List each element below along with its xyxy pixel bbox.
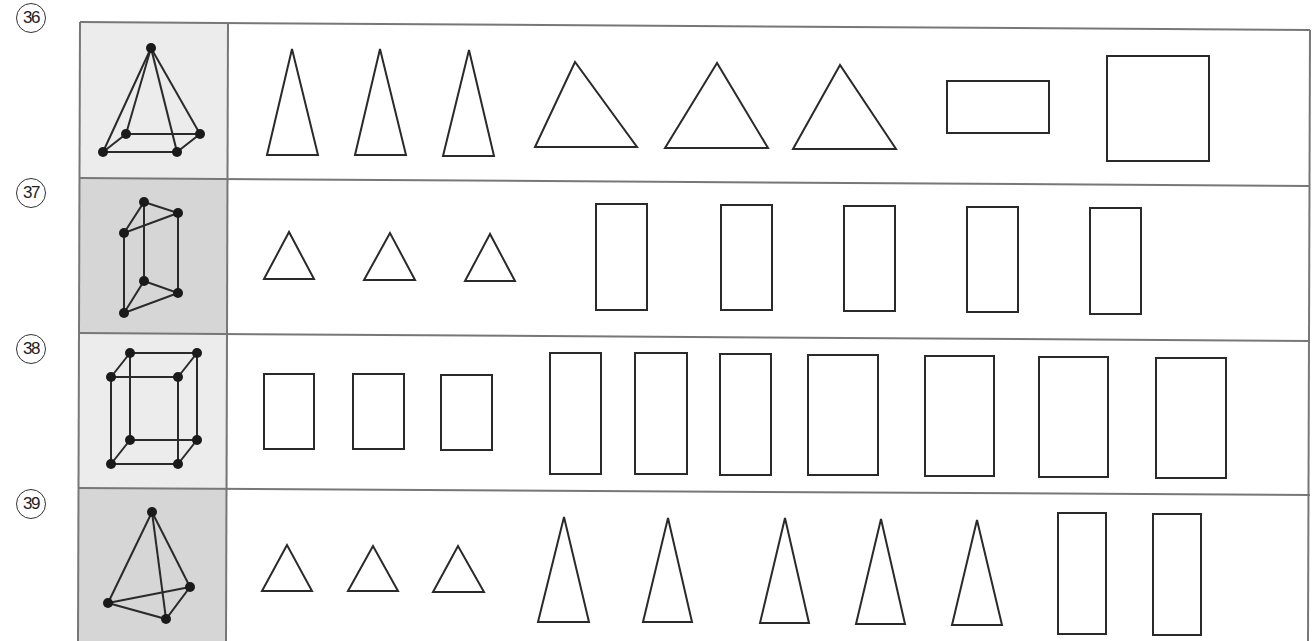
face-tall-triangle	[538, 517, 589, 622]
face-rectangle	[925, 356, 994, 476]
face-tall-rectangle	[1153, 514, 1201, 635]
face-rectangle	[1156, 358, 1226, 478]
face-tall-rectangle	[844, 206, 895, 311]
face-tall-triangle	[856, 519, 905, 624]
face-small-triangle	[465, 234, 515, 281]
face-rectangle	[1039, 357, 1108, 477]
face-tall-rectangle	[550, 353, 601, 474]
face-tall-rectangle	[1058, 513, 1106, 634]
face-tall-triangle	[267, 49, 318, 155]
face-triangle	[535, 62, 637, 147]
worksheet-table	[0, 0, 1312, 641]
face-tall-rectangle	[596, 204, 647, 310]
face-tall-triangle	[355, 49, 406, 155]
face-tall-triangle	[760, 518, 809, 623]
face-small-triangle	[364, 233, 415, 280]
face-tall-rectangle	[721, 205, 772, 310]
face-tall-triangle	[643, 518, 692, 622]
face-tall-rectangle	[967, 207, 1018, 312]
face-small-triangle	[264, 232, 314, 279]
face-small-rectangle	[264, 374, 314, 449]
face-small-triangle	[433, 546, 484, 592]
face-rectangle-wide	[947, 81, 1049, 133]
square-pyramid-icon	[98, 43, 205, 157]
face-tall-rectangle	[1090, 208, 1141, 314]
triangular-prism-icon	[119, 197, 183, 318]
face-small-rectangle	[353, 374, 404, 449]
face-triangle	[665, 63, 768, 148]
face-small-triangle	[348, 546, 398, 591]
face-tall-triangle	[443, 50, 494, 156]
face-rectangle	[808, 355, 878, 475]
triangular-pyramid-icon	[103, 507, 195, 624]
face-triangle	[793, 65, 896, 149]
faces-row-38	[264, 353, 1226, 478]
face-small-triangle	[262, 545, 312, 591]
table-grid	[78, 22, 1310, 641]
face-small-rectangle	[441, 375, 492, 450]
faces-row-37	[264, 204, 1141, 314]
face-tall-triangle	[952, 520, 1002, 625]
rectangular-prism-icon	[106, 348, 202, 469]
faces-row-39	[262, 513, 1201, 635]
face-square	[1107, 56, 1209, 161]
faces-row-36	[267, 49, 1209, 161]
face-tall-rectangle	[635, 353, 687, 474]
face-tall-rectangle	[720, 354, 771, 475]
